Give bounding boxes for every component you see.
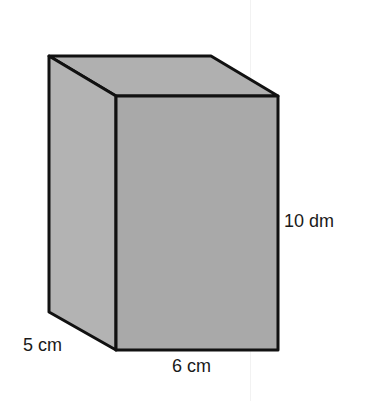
depth-label: 5 cm xyxy=(23,335,62,356)
side-face xyxy=(49,56,116,350)
front-face xyxy=(116,96,278,350)
width-label: 6 cm xyxy=(172,356,211,377)
height-label: 10 dm xyxy=(284,211,334,232)
